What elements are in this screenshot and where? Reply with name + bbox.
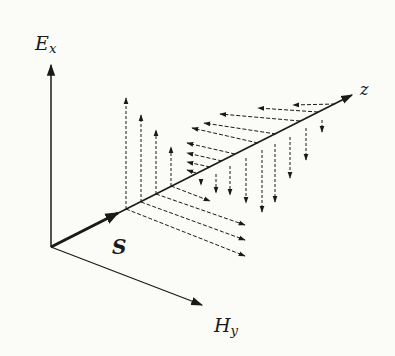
h-axis-label: Hy <box>214 314 238 338</box>
e-axis-label: Ex <box>35 32 56 56</box>
h-field-left-arrow <box>204 123 276 134</box>
poynting-vector-label: S <box>112 235 126 259</box>
h-field-left-arrow <box>187 170 196 173</box>
h-field-right-arrow <box>171 186 210 201</box>
em-wave-diagram: Ex Hy z S <box>0 0 395 356</box>
diagram-canvas <box>0 0 395 356</box>
h-field-left-arrow <box>293 104 335 105</box>
h-field-right-arrow <box>156 194 245 225</box>
h-field-left-arrow <box>187 143 235 154</box>
h-field-left-arrow <box>187 153 222 161</box>
h-field-left-arrow <box>187 162 210 167</box>
h-axis-arrow <box>51 247 202 305</box>
h-field-left-arrow <box>192 128 258 143</box>
axes-group <box>51 65 352 305</box>
h-field-right-arrow <box>126 209 245 256</box>
h-field-left-arrow <box>220 114 300 121</box>
h-field-left-arrow <box>258 108 318 112</box>
field-vectors-group <box>126 98 335 256</box>
z-axis-label: z <box>360 80 368 99</box>
s-poynting-arrow <box>51 213 118 247</box>
